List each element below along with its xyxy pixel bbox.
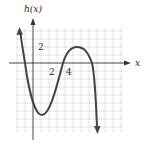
x-axis-arrow-icon — [124, 61, 131, 66]
y-tick-2: 2 — [38, 42, 44, 52]
curve-end-arrow-icon — [94, 126, 101, 134]
x-tick-4: 4 — [66, 67, 72, 77]
y-axis-arrow-icon — [31, 18, 36, 25]
graph: h(x) x 2 2 4 — [0, 0, 145, 148]
x-axis-label: x — [135, 58, 140, 68]
x-axis — [9, 61, 131, 66]
x-tick-2: 2 — [49, 67, 55, 77]
y-axis-label: h(x) — [24, 4, 42, 14]
